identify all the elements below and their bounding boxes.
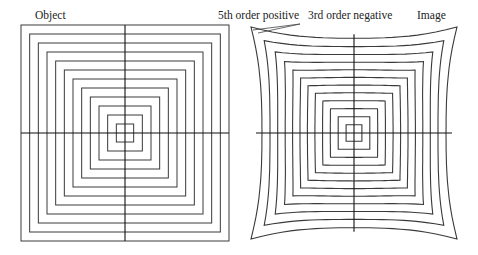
image-distorted-grid	[251, 27, 457, 239]
object-grid	[21, 25, 229, 241]
distortion-diagram	[0, 0, 478, 255]
